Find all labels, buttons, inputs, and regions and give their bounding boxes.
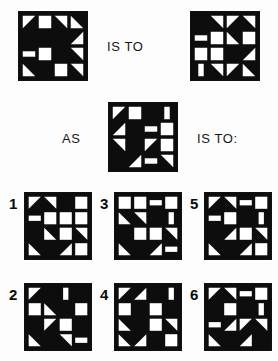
option-5[interactable] [204, 192, 272, 260]
option-3-label: 3 [100, 196, 108, 211]
option-4[interactable] [114, 283, 182, 351]
option-5-label: 5 [190, 196, 198, 211]
pattern-grid [117, 195, 179, 257]
option-1[interactable] [24, 192, 92, 260]
puzzle-canvas: IS TO AS IS TO: 135246 [0, 0, 278, 361]
relation-text-is-to: IS TO [107, 39, 143, 54]
prompt-square-a [18, 11, 88, 81]
pattern-grid [111, 105, 175, 169]
option-3[interactable] [114, 192, 182, 260]
relation-text-as: AS [62, 131, 81, 146]
option-2-label: 2 [9, 287, 17, 302]
pattern-grid [117, 286, 179, 348]
pattern-grid [21, 14, 85, 78]
prompt-square-c [108, 102, 178, 172]
relation-text-is-to-question: IS TO: [197, 131, 238, 146]
pattern-grid [207, 286, 269, 348]
option-1-label: 1 [9, 196, 17, 211]
pattern-grid [27, 195, 89, 257]
prompt-square-b [190, 11, 260, 81]
pattern-grid [27, 286, 89, 348]
option-2[interactable] [24, 283, 92, 351]
pattern-grid [207, 195, 269, 257]
pattern-grid [193, 14, 257, 78]
option-4-label: 4 [100, 287, 108, 302]
option-6[interactable] [204, 283, 272, 351]
option-6-label: 6 [190, 287, 198, 302]
